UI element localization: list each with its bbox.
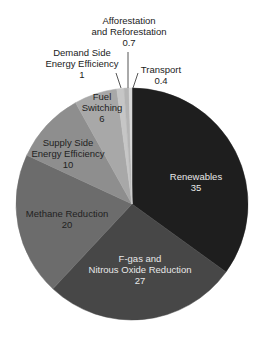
label-renewables: Renewables 35: [170, 171, 222, 193]
label-supply-line2: Energy Efficiency: [31, 148, 104, 159]
label-fuel: Fuel Switching 6: [82, 91, 123, 124]
label-afforestation-value: 0.7: [92, 37, 167, 48]
label-supply-line1: Supply Side: [31, 137, 104, 148]
label-fgas: F-gas and Nitrous Oxide Reduction 27: [89, 253, 192, 286]
label-afforestation: Afforestation and Reforestation 0.7: [92, 15, 167, 48]
label-renewables-value: 35: [170, 182, 222, 193]
label-demand-value: 1: [45, 69, 118, 80]
label-fgas-line1: F-gas and: [89, 253, 192, 264]
label-fuel-line2: Switching: [82, 102, 123, 113]
label-transport-value: 0.4: [141, 75, 181, 86]
label-transport: Transport 0.4: [141, 64, 181, 86]
label-methane: Methane Reduction 20: [26, 208, 108, 230]
label-fuel-line1: Fuel: [82, 91, 123, 102]
label-supply-value: 10: [31, 159, 104, 170]
label-renewables-name: Renewables: [170, 171, 222, 182]
label-demand: Demand Side Energy Efficiency 1: [45, 47, 118, 80]
label-fuel-value: 6: [82, 113, 123, 124]
label-demand-line1: Demand Side: [45, 47, 118, 58]
label-transport-name: Transport: [141, 64, 181, 75]
label-fgas-line2: Nitrous Oxide Reduction: [89, 264, 192, 275]
leader-lines: [116, 52, 138, 88]
leader-line-transport: [133, 73, 138, 88]
label-methane-value: 20: [26, 219, 108, 230]
label-afforestation-line2: and Reforestation: [92, 26, 167, 37]
label-fgas-value: 27: [89, 275, 192, 286]
label-demand-line2: Energy Efficiency: [45, 58, 118, 69]
label-supply: Supply Side Energy Efficiency 10: [31, 137, 104, 170]
label-methane-name: Methane Reduction: [26, 208, 108, 219]
label-afforestation-line1: Afforestation: [92, 15, 167, 26]
